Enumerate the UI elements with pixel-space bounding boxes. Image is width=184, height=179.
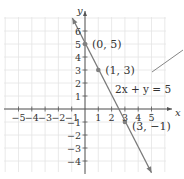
x-tick-label: 1 <box>95 112 101 123</box>
data-point <box>83 42 88 47</box>
x-axis-label: x <box>175 107 181 118</box>
y-tick-label: −1 <box>67 117 81 128</box>
coordinate-plane: xy−5−4−3−2−112345−4−3−2−1123456(0, 5)(1,… <box>0 0 184 179</box>
y-tick-label: 6 <box>75 26 81 37</box>
y-tick-label: 3 <box>75 65 81 76</box>
x-tick-label: 3 <box>122 112 128 123</box>
pointer-line <box>152 50 183 72</box>
labels: xy−5−4−3−2−112345−4−3−2−1123456(0, 5)(1,… <box>11 5 183 167</box>
x-axis-arrow-icon <box>167 107 172 111</box>
y-tick-label: 2 <box>75 78 81 89</box>
y-tick-label: −2 <box>67 130 81 141</box>
x-tick-label: −5 <box>11 112 25 123</box>
y-axis-label: y <box>76 5 83 16</box>
x-tick-label: 2 <box>109 112 115 123</box>
x-tick-label: −3 <box>38 112 52 123</box>
y-tick-label: 5 <box>75 39 81 50</box>
point-label: (1, 3) <box>105 64 135 77</box>
y-tick-label: −3 <box>67 143 81 154</box>
y-axis-arrow-icon <box>83 11 87 16</box>
y-tick-label: −4 <box>67 156 81 167</box>
data-point <box>96 68 101 73</box>
point-label: (0, 5) <box>92 38 122 51</box>
x-tick-label: −4 <box>25 112 39 123</box>
y-tick-label: 4 <box>75 52 81 63</box>
equation-label: 2x + y = 5 <box>115 83 171 95</box>
point-label: (3, −1) <box>132 120 171 133</box>
y-tick-label: 1 <box>75 91 81 102</box>
x-tick-label: −2 <box>51 112 65 123</box>
